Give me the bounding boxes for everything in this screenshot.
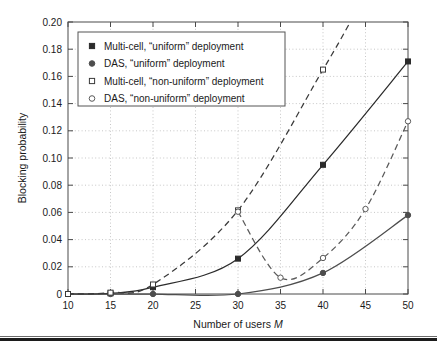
y-tick-label: 0.20 <box>43 17 63 28</box>
y-tick-label: 0.08 <box>43 180 63 191</box>
y-tick-label: 0.16 <box>43 71 63 82</box>
data-point-open-circle <box>235 209 240 214</box>
legend-label: Multi-cell, “non-uniform” deployment <box>104 76 264 87</box>
legend-marker-filled-circle <box>89 61 95 67</box>
figure-container: 00.020.040.060.080.100.120.140.160.180.2… <box>0 0 437 351</box>
legend-marker-filled-square <box>89 43 94 48</box>
x-axis-tick-labels: 101520253035404550 <box>62 300 414 311</box>
data-point-open-circle <box>278 275 283 280</box>
y-tick-label: 0.04 <box>43 234 63 245</box>
data-point-filled-square <box>236 256 241 261</box>
blocking-probability-chart: 00.020.040.060.080.100.120.140.160.180.2… <box>0 0 437 351</box>
data-point-filled-circle <box>235 291 240 296</box>
data-point-open-square <box>66 292 71 297</box>
data-point-open-square <box>151 282 156 287</box>
x-tick-label: 15 <box>105 300 117 311</box>
data-point-filled-circle <box>320 270 325 275</box>
data-point-filled-square <box>406 59 411 64</box>
y-tick-label: 0.18 <box>43 44 63 55</box>
data-point-open-square <box>321 67 326 72</box>
x-tick-label: 40 <box>317 300 329 311</box>
data-point-open-square <box>108 290 113 295</box>
legend-marker-open-circle <box>89 96 95 102</box>
y-tick-label: 0.02 <box>43 261 63 272</box>
data-point-filled-circle <box>405 212 410 217</box>
legend-label: Multi-cell, “uniform” deployment <box>104 41 244 52</box>
y-tick-label: 0.12 <box>43 125 63 136</box>
y-tick-label: 0.10 <box>43 153 63 164</box>
legend: Multi-cell, “uniform” deploymentDAS, “un… <box>78 32 285 106</box>
x-tick-label: 45 <box>360 300 372 311</box>
footer-rule-thin <box>0 336 437 337</box>
data-point-open-circle <box>320 255 325 260</box>
x-axis-label: Number of users M <box>193 318 283 330</box>
data-point-filled-circle <box>150 291 155 296</box>
data-point-open-circle <box>405 119 410 124</box>
x-axis-label-symbol: M <box>274 318 283 330</box>
legend-label: DAS, “non-uniform” deployment <box>104 93 245 104</box>
y-tick-label: 0.14 <box>43 98 63 109</box>
x-tick-label: 35 <box>275 300 287 311</box>
footer-rule-thick <box>0 338 437 341</box>
x-tick-label: 20 <box>147 300 159 311</box>
y-tick-label: 0.06 <box>43 207 63 218</box>
legend-marker-open-square <box>89 78 94 83</box>
legend-label: DAS, “uniform” deployment <box>104 58 225 69</box>
y-tick-label: 0 <box>56 289 62 300</box>
x-tick-label: 30 <box>232 300 244 311</box>
y-axis-label: Blocking probability <box>16 112 28 203</box>
x-tick-label: 50 <box>402 300 414 311</box>
x-tick-label: 25 <box>190 300 202 311</box>
x-tick-label: 10 <box>62 300 74 311</box>
x-axis-label-text: Number of users <box>193 318 271 330</box>
data-point-open-circle <box>363 206 368 211</box>
data-point-filled-square <box>321 162 326 167</box>
